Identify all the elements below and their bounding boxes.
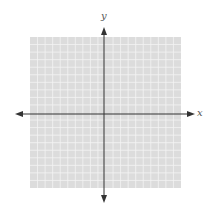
arrow-right-icon (187, 111, 195, 117)
arrow-up-icon (101, 27, 107, 35)
arrow-left-icon (15, 111, 23, 117)
coordinate-plane (0, 0, 206, 213)
y-axis-label: y (101, 11, 107, 21)
x-axis-label: x (197, 108, 203, 118)
arrow-down-icon (101, 195, 107, 203)
